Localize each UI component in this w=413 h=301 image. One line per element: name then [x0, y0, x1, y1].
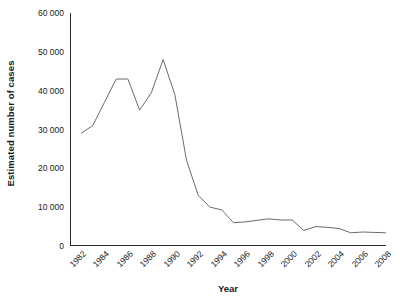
axis-lines	[70, 13, 386, 246]
x-tick-label: 1992	[180, 249, 205, 274]
x-tick-label: 2000	[274, 249, 299, 274]
y-axis-title-text: Estimated number of cases	[5, 60, 16, 186]
x-tick-label: 1998	[251, 249, 276, 274]
x-tick-label: 1986	[110, 249, 135, 274]
plot-area	[70, 13, 386, 246]
data-line-series-1	[81, 60, 386, 233]
y-tick-label: 30 000	[20, 125, 64, 134]
chart-figure: Estimated number of cases 60 00050 00040…	[0, 0, 413, 301]
x-tick-label: 1984	[87, 249, 112, 274]
x-axis-title: Year	[70, 283, 386, 294]
x-tick-label: 2008	[368, 249, 393, 274]
x-tick-label: 2002	[298, 249, 323, 274]
y-tick-label: 40 000	[20, 86, 64, 95]
y-tick-label: 0	[20, 242, 64, 251]
y-axis-tick-labels: 60 00050 00040 00030 00020 00010 0000	[16, 13, 64, 246]
y-tick-label: 20 000	[20, 164, 64, 173]
x-tick-label: 2004	[321, 249, 346, 274]
x-tick-label: 1996	[227, 249, 252, 274]
x-tick-label: 1988	[134, 249, 159, 274]
x-tick-label: 1994	[204, 249, 229, 274]
x-tick-label: 2006	[345, 249, 370, 274]
x-tick-label: 1982	[63, 249, 88, 274]
x-tick-label: 1990	[157, 249, 182, 274]
x-axis-tick-labels: 1982198419861988199019921994199619982000…	[70, 248, 400, 282]
y-tick-label: 60 000	[20, 9, 64, 18]
y-tick-label: 50 000	[20, 47, 64, 56]
plot-svg	[70, 13, 386, 246]
y-tick-label: 10 000	[20, 203, 64, 212]
